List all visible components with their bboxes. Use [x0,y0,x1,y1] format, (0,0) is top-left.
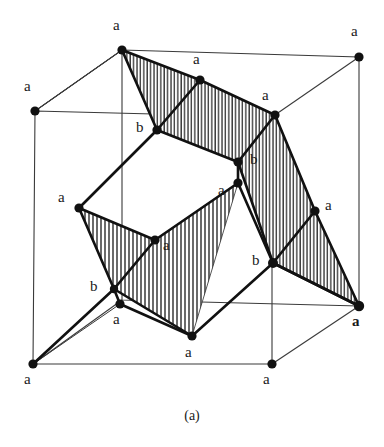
edge-lowerBL-bfl [33,289,114,364]
dot-cube-bot-front-right [267,359,276,368]
edge-upperB-leftA [79,130,157,208]
label-a-bottom-left-cube: a [24,372,31,387]
dot-poly-mid-b-r [233,157,242,166]
dot-cube-top-back-left [117,45,126,54]
label-b-poly-lower-right: b [252,253,260,268]
label-a-poly-upper-right: a [262,88,269,103]
label-a-bottom-poly: a [185,345,192,360]
dot-poly-bottom-a [187,331,196,340]
cube-edge-tr [272,57,359,117]
label-a-poly-mid-right: a [218,183,225,198]
label-a-lower-left-small: a [113,312,120,327]
label-a-poly-right: a [325,198,332,213]
dot-cube-top-back-right [354,52,363,61]
dot-poly-lower-b-l [110,285,118,293]
label-a-top-left-cube: a [113,18,120,33]
conn-tfl-to-topA [35,50,122,111]
dot-poly-left-a [74,203,83,212]
figure-caption: (a) [0,408,384,424]
cube-edge-br [272,306,359,364]
label-a-top-right-cube: a [351,24,358,39]
label-b-poly-upper-left: b [136,120,144,135]
label-b-poly-lower-left: b [90,279,98,294]
crystal-structure-figure: aaaaabbaaaabbaaaaa (a) [0,0,384,447]
label-a-right-cube-bold: a [352,314,360,329]
dot-poly-mid-a-r [233,178,242,187]
dot-cube-top-front-left [30,106,39,115]
crystal-structure-drawing [0,0,384,447]
dot-poly-upper-b-l [152,125,161,134]
dot-poly-right-a [310,206,319,215]
label-b-poly-mid-right: b [250,152,258,167]
dot-poly-lower-b-r [268,258,278,268]
dot-cube-bot-front-left [28,359,37,368]
label-a-bottom-right-cube: a [263,372,270,387]
label-a-poly-center: a [163,238,170,253]
label-a-poly-left: a [58,190,65,205]
dot-poly-lower-a-l [115,299,124,308]
dot-poly-center-a [150,235,159,244]
dot-poly-upper-a-r [270,110,279,119]
conn-bfl-to-lowera [33,304,120,364]
label-a-left-cube: a [24,79,31,94]
dot-poly-top-a [195,75,204,84]
label-a-poly-top: a [193,52,200,67]
dot-cube-bot-back-right [354,301,364,311]
